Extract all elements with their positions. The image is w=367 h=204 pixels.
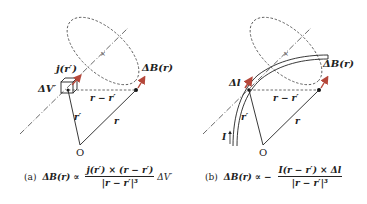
formula-numerator: j(r′) × (r − r′) xyxy=(85,165,154,177)
caption-tag: (b) xyxy=(205,172,218,182)
field-arrow xyxy=(321,78,327,88)
label-field-position: r xyxy=(295,117,300,126)
formula-denominator: |r − r′|³ xyxy=(102,177,138,188)
svg-text:×: × xyxy=(100,50,106,58)
svg-text:×: × xyxy=(283,50,289,58)
panel-b-line-current: × Δl ΔB(r) r − r′ r′ r I O (b) ΔB(r) ∝ −… xyxy=(183,0,366,204)
label-field-position: r xyxy=(114,117,119,126)
label-source-position: r′ xyxy=(241,113,248,122)
label-volume-element: ΔV′ xyxy=(38,84,56,94)
formula-numerator: I(r − r′) × Δl xyxy=(278,165,343,177)
label-current: I xyxy=(222,133,226,142)
formula-fraction: I(r − r′) × Δl |r − r′|³ xyxy=(278,165,343,188)
label-field-element: ΔB(r) xyxy=(323,59,354,69)
label-origin: O xyxy=(76,148,84,158)
caption-b: (b) ΔB(r) ∝ − I(r − r′) × Δl |r − r′|³ xyxy=(205,165,345,188)
current-density-arrow xyxy=(72,76,80,85)
label-line-element: Δl xyxy=(229,78,241,88)
label-displacement: r − r′ xyxy=(273,94,299,103)
caption-tail: ΔV′ xyxy=(157,172,172,182)
caption-tag: (a) xyxy=(24,172,36,182)
label-source-position: r′ xyxy=(74,113,81,122)
caption-lhs: ΔB(r) ∝ xyxy=(42,172,79,182)
source-position-vector xyxy=(249,90,263,145)
diagram-a-drawing: × xyxy=(0,0,183,160)
label-displacement: r − r′ xyxy=(90,94,116,103)
label-field-element: ΔB(r) xyxy=(142,63,173,73)
field-arrow xyxy=(138,78,144,88)
caption-a: (a) ΔB(r) ∝ j(r′) × (r − r′) |r − r′|³ Δ… xyxy=(24,165,172,188)
formula-denominator: |r − r′|³ xyxy=(292,177,328,188)
formula-fraction: j(r′) × (r − r′) |r − r′|³ xyxy=(85,165,154,188)
diagram-b-drawing: × xyxy=(183,0,367,160)
caption-lhs: ΔB(r) ∝ − xyxy=(224,172,272,182)
label-current-density: j(r′) xyxy=(56,64,77,74)
panel-a-volume-current: × j(r′) ΔV′ ΔB(r) r − r′ r′ r O (a) ΔB(r… xyxy=(0,0,183,204)
label-origin: O xyxy=(259,148,267,158)
